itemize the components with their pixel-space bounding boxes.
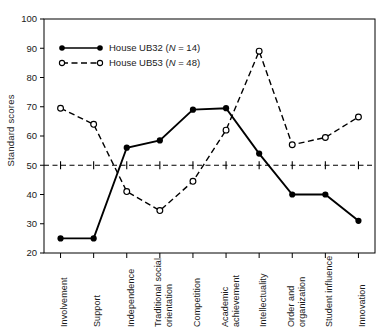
data-point — [322, 135, 328, 141]
data-point — [256, 48, 262, 54]
legend-label-ub32-tail: = 14) — [176, 42, 201, 53]
legend-marker-dashed-line-icon — [58, 57, 104, 69]
y-tick-label: 100 — [21, 13, 37, 24]
y-tick-label: 60 — [26, 130, 37, 141]
legend-label-ub32-n: N — [169, 42, 176, 53]
data-point — [322, 191, 328, 197]
y-tick-label: 50 — [26, 160, 37, 171]
data-point — [289, 142, 295, 148]
data-point — [58, 105, 64, 111]
data-point — [356, 114, 362, 120]
legend-label-ub53-tail: = 48) — [176, 57, 201, 68]
data-point — [57, 235, 63, 241]
legend-label-ub32: House UB32 (N = 14) — [109, 42, 200, 53]
series-line-ub32 — [61, 108, 359, 238]
y-tick-label: 80 — [26, 72, 37, 83]
legend-item-ub53: House UB53 (N = 48) — [58, 55, 200, 70]
data-point — [157, 137, 163, 143]
legend-label-ub53-main: House UB53 ( — [109, 57, 169, 68]
legend-marker-solid-line-icon — [58, 42, 104, 54]
chart-legend: House UB32 (N = 14) House UB53 (N = 48) — [58, 40, 200, 70]
y-tick-label: 20 — [26, 247, 37, 258]
y-tick-label: 70 — [26, 101, 37, 112]
y-tick-label: 90 — [26, 43, 37, 54]
legend-label-ub32-main: House UB32 ( — [109, 42, 169, 53]
data-point — [91, 121, 97, 127]
series-line-ub53 — [61, 51, 359, 210]
legend-item-ub32: House UB32 (N = 14) — [58, 40, 200, 55]
data-point — [289, 191, 295, 197]
data-point — [124, 145, 130, 151]
legend-label-ub53: House UB53 (N = 48) — [109, 57, 200, 68]
data-point — [223, 105, 229, 111]
data-point — [355, 218, 361, 224]
data-point — [223, 127, 229, 133]
chart-figure: Standard scores 1009080706050403020 Hous… — [0, 0, 390, 333]
data-point — [157, 208, 163, 214]
data-point — [124, 189, 130, 195]
y-tick-label: 40 — [26, 189, 37, 200]
data-point — [91, 235, 97, 241]
data-point — [256, 150, 262, 156]
legend-label-ub53-n: N — [169, 57, 176, 68]
data-point — [190, 178, 196, 184]
y-tick-label: 30 — [26, 218, 37, 229]
data-point — [190, 107, 196, 113]
